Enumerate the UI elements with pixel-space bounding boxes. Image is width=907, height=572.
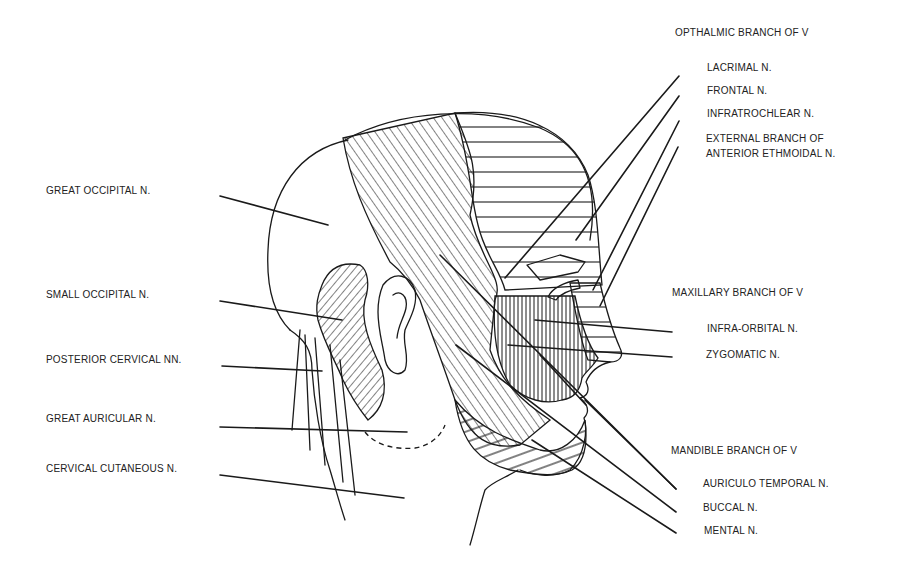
leader-line-great-auricular — [220, 427, 407, 432]
label-auriculo-temporal: AURICULO TEMPORAL N. — [703, 478, 829, 490]
leader-line-mandible-inner-2 — [585, 400, 676, 489]
maxillary-heading: MAXILLARY BRANCH OF V — [672, 287, 803, 299]
ophthalmic-heading: OPTHALMIC BRANCH OF V — [675, 27, 809, 39]
label-small-occipital: SMALL OCCIPITAL N. — [46, 289, 149, 301]
neck-front — [470, 470, 518, 545]
leader-line-cervical-cutaneous — [220, 475, 404, 498]
label-cervical-cutaneous: CERVICAL CUTANEOUS N. — [46, 463, 177, 475]
label-lacrimal: LACRIMAL N. — [707, 62, 772, 74]
great-auricular-region — [365, 425, 445, 448]
label-infratrochlear: INFRATROCHLEAR N. — [707, 108, 814, 120]
small-occipital-region — [317, 264, 385, 420]
mandibular-heading: MANDIBLE BRANCH OF V — [671, 445, 797, 457]
label-buccal: BUCCAL N. — [703, 502, 758, 514]
leader-line-mental — [532, 440, 676, 533]
label-external-branch-anterior-ethmoidal: EXTERNAL BRANCH OF ANTERIOR ETHMOIDAL N. — [706, 131, 835, 161]
label-great-occipital: GREAT OCCIPITAL N. — [46, 185, 150, 197]
leader-line-external-branch-anterior-ethmoidal — [600, 147, 678, 306]
leader-line-great-occipital — [220, 196, 328, 225]
label-frontal: FRONTAL N. — [707, 85, 767, 97]
label-mental: MENTAL N. — [704, 525, 758, 537]
leader-line-frontal — [576, 96, 679, 240]
ear — [378, 276, 416, 374]
label-zygomatic: ZYGOMATIC N. — [706, 349, 780, 361]
label-infra-orbital: INFRA-ORBITAL N. — [707, 323, 798, 335]
head-nerve-diagram: GREAT OCCIPITAL N.SMALL OCCIPITAL N.POST… — [0, 0, 907, 572]
label-great-auricular: GREAT AURICULAR N. — [46, 413, 156, 425]
label-posterior-cervical: POSTERIOR CERVICAL NN. — [46, 354, 182, 366]
leader-line-infratrochlear — [593, 121, 679, 290]
